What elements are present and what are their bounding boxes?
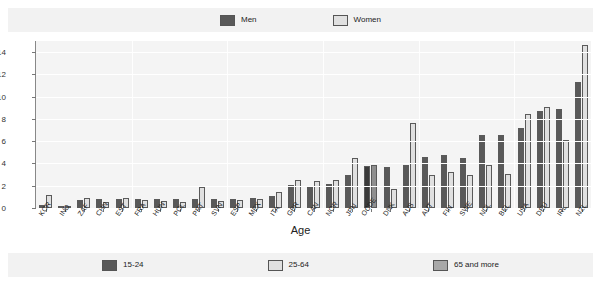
bar-group xyxy=(553,41,572,208)
x-gridline xyxy=(419,41,420,208)
bar-group xyxy=(55,41,74,208)
bar-men xyxy=(575,82,581,208)
bar-women xyxy=(410,123,416,208)
y-tick-label: 0 xyxy=(0,204,6,213)
bar-group xyxy=(132,41,151,208)
y-tick-mark xyxy=(32,52,36,53)
y-gridline xyxy=(36,141,591,142)
y-tick-label: 8 xyxy=(0,114,6,123)
bar-group xyxy=(419,41,438,208)
bar-group xyxy=(113,41,132,208)
legend-swatch-men xyxy=(220,15,235,26)
y-tick-mark xyxy=(32,97,36,98)
bar-group xyxy=(170,41,189,208)
y-tick-mark xyxy=(32,186,36,187)
y-gridline xyxy=(36,186,591,187)
x-gridline xyxy=(227,41,228,208)
legend-bottom: 15-24 25-64 65 and more xyxy=(8,253,593,277)
y-gridline xyxy=(36,163,591,164)
legend-label-15-24: 15-24 xyxy=(123,261,143,269)
bar-men xyxy=(556,109,562,208)
y-tick-label: 2 xyxy=(0,181,6,190)
y-tick-mark xyxy=(32,119,36,120)
bar-group xyxy=(36,41,55,208)
x-gridline xyxy=(323,41,324,208)
y-tick-label: 12 xyxy=(0,70,6,79)
bar-group xyxy=(74,41,93,208)
bar-group xyxy=(208,41,227,208)
x-axis-title: Age xyxy=(8,224,593,236)
bar-group xyxy=(361,41,380,208)
bar-group xyxy=(572,41,591,208)
bar-group xyxy=(266,41,285,208)
bar-group xyxy=(342,41,361,208)
bar-women xyxy=(525,114,531,208)
bar-women xyxy=(582,45,588,208)
bar-group xyxy=(438,41,457,208)
legend-label-65-and-more: 65 and more xyxy=(454,261,499,269)
y-tick-mark xyxy=(32,163,36,164)
y-gridline xyxy=(36,119,591,120)
y-tick-label: 10 xyxy=(0,92,6,101)
bar-women xyxy=(448,172,454,208)
bar-women xyxy=(563,140,569,208)
y-tick-mark xyxy=(32,74,36,75)
y-gridline xyxy=(36,97,591,98)
bar-group xyxy=(247,41,266,208)
legend-item-men: Men xyxy=(220,15,257,26)
y-tick-label: 14 xyxy=(0,48,6,57)
bar-women xyxy=(544,107,550,208)
legend-item-65-and-more: 65 and more xyxy=(433,260,499,271)
legend-swatch-65-and-more xyxy=(433,260,448,271)
bar-men xyxy=(537,111,543,208)
bar-group xyxy=(93,41,112,208)
bar-group xyxy=(323,41,342,208)
y-tick-mark xyxy=(32,208,36,209)
bar-group xyxy=(151,41,170,208)
bar-group xyxy=(457,41,476,208)
bar-group xyxy=(381,41,400,208)
bar-group xyxy=(515,41,534,208)
legend-label-men: Men xyxy=(241,16,257,24)
legend-label-25-64: 25-64 xyxy=(289,261,309,269)
legend-swatch-15-24 xyxy=(102,260,117,271)
bar-group xyxy=(227,41,246,208)
legend-top: Men Women xyxy=(8,8,593,32)
bar-group xyxy=(189,41,208,208)
bar-group xyxy=(285,41,304,208)
bar-group xyxy=(476,41,495,208)
y-tick-mark xyxy=(32,141,36,142)
bar-men xyxy=(422,157,428,208)
chart-page: Men Women 02468101214 KORINDZAFCHNESTFRA… xyxy=(0,0,601,287)
legend-swatch-women xyxy=(333,15,348,26)
bar-group xyxy=(400,41,419,208)
bar-group xyxy=(495,41,514,208)
plot-area: 02468101214 xyxy=(35,41,591,209)
legend-item-15-24: 15-24 xyxy=(102,260,143,271)
y-tick-label: 6 xyxy=(0,137,6,146)
bar-women xyxy=(352,158,358,208)
bar-group xyxy=(534,41,553,208)
legend-item-women: Women xyxy=(333,15,381,26)
y-tick-label: 4 xyxy=(0,159,6,168)
legend-swatch-25-64 xyxy=(268,260,283,271)
y-gridline xyxy=(36,52,591,53)
bars-container xyxy=(36,41,591,208)
x-gridline xyxy=(514,41,515,208)
legend-label-women: Women xyxy=(354,16,381,24)
bar-men xyxy=(498,135,504,208)
legend-item-25-64: 25-64 xyxy=(268,260,309,271)
bar-men xyxy=(518,128,524,208)
bar-men xyxy=(479,135,485,208)
bar-group xyxy=(304,41,323,208)
chart-plot-wrapper: 02468101214 KORINDZAFCHNESTFRAHUNPOLPRTS… xyxy=(8,38,593,243)
y-gridline xyxy=(36,74,591,75)
x-gridline xyxy=(132,41,133,208)
